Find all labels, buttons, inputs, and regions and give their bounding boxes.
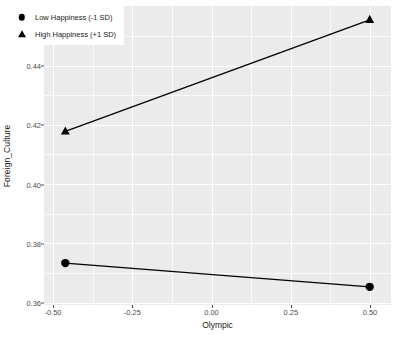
x-axis-title-text: Olympic xyxy=(202,320,233,330)
x-axis-title: Olympic xyxy=(44,320,391,330)
legend: Low Happiness (-1 SD) High Happiness (+1… xyxy=(10,6,124,45)
legend-item-low-happiness[interactable]: Low Happiness (-1 SD) xyxy=(15,11,116,23)
x-tick-mark-4 xyxy=(370,305,371,308)
x-tick-mark-0 xyxy=(53,305,54,308)
x-tick-label-4: 0.50 xyxy=(363,308,378,317)
x-tick-label-1: -0.25 xyxy=(124,308,141,317)
legend-label-low-happiness: Low Happiness (-1 SD) xyxy=(35,13,113,22)
interaction-plot: Foreign_Culture 0.36 0.38 0.40 0.42 0.44 xyxy=(0,0,397,342)
x-tick-label-0: -0.50 xyxy=(44,308,61,317)
circle-marker-icon xyxy=(15,11,28,24)
legend-item-high-happiness[interactable]: High Happiness (+1 SD) xyxy=(15,28,116,40)
x-tick-label-2: 0.00 xyxy=(204,308,219,317)
x-tick-label-3: 0.25 xyxy=(283,308,298,317)
legend-label-high-happiness: High Happiness (+1 SD) xyxy=(35,30,116,39)
triangle-marker-icon xyxy=(15,28,28,41)
x-axis-ticks: -0.50 -0.25 0.00 0.25 0.50 xyxy=(0,0,397,342)
x-tick-mark-3 xyxy=(291,305,292,308)
x-tick-mark-1 xyxy=(132,305,133,308)
x-tick-mark-2 xyxy=(212,305,213,308)
